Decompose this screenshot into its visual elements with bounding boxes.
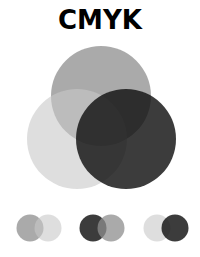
pair-1 — [17, 215, 62, 242]
pair-3-right-circle — [162, 215, 189, 242]
pair-3 — [144, 215, 189, 242]
pair-1-right-circle — [35, 215, 62, 242]
pair-2 — [80, 215, 125, 242]
venn-circle-lower-right — [76, 89, 176, 189]
cmyk-venn-diagram — [0, 0, 200, 257]
pair-2-right-circle — [98, 215, 125, 242]
main-venn — [27, 46, 176, 189]
